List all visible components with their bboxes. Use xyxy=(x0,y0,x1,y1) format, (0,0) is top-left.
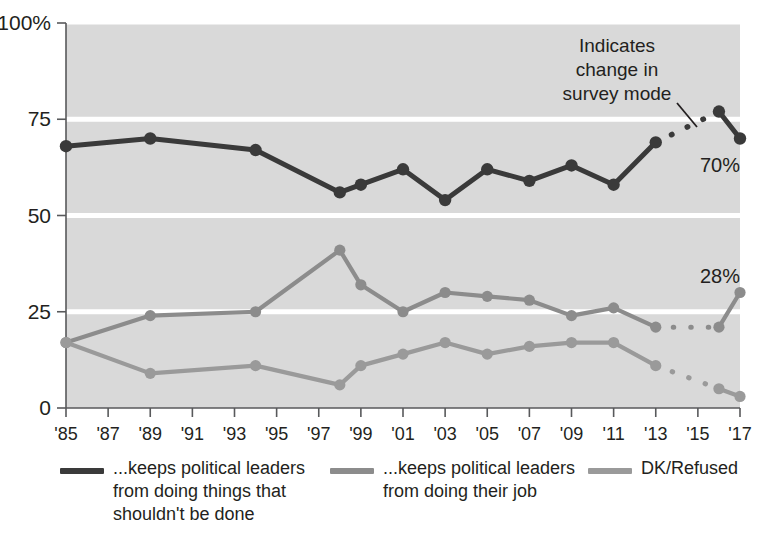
data-point xyxy=(524,295,535,306)
y-tick-label-0: 0 xyxy=(39,396,51,419)
x-tick-label-'09: '09 xyxy=(560,424,583,444)
data-point xyxy=(608,302,619,313)
data-point xyxy=(482,349,493,360)
data-point xyxy=(334,186,346,198)
data-point xyxy=(355,179,367,191)
data-point xyxy=(60,140,72,152)
data-point xyxy=(713,383,724,394)
data-point xyxy=(734,132,746,144)
legend-label-series-1: ...keeps political leaders from doing th… xyxy=(113,457,305,526)
y-tick-label-100: 100% xyxy=(0,11,51,34)
data-point xyxy=(250,360,261,371)
data-point xyxy=(397,306,408,317)
x-tick-label-'89: '89 xyxy=(139,424,162,444)
data-point xyxy=(250,306,261,317)
data-point xyxy=(397,163,409,175)
legend-swatch-series-2 xyxy=(330,468,374,474)
x-tick-label-'95: '95 xyxy=(265,424,288,444)
data-point xyxy=(650,360,661,371)
data-point xyxy=(144,132,156,144)
annotation-line-1: Indicates xyxy=(579,35,655,56)
data-point xyxy=(734,287,745,298)
x-axis-labels: '85'87'89'91'93'95'97'99'01'03'05'07'09'… xyxy=(54,424,751,444)
x-tick-label-'85: '85 xyxy=(54,424,77,444)
line-chart: 0255075100% '85'87'89'91'93'95'97'99'01'… xyxy=(0,0,767,534)
legend-item-dk-refused[interactable]: DK/Refused xyxy=(588,457,738,480)
data-point xyxy=(734,391,745,402)
data-point xyxy=(713,322,724,333)
y-axis-labels: 0255075100% xyxy=(0,11,51,419)
x-tick-label-'05: '05 xyxy=(476,424,499,444)
x-tick-label-'03: '03 xyxy=(433,424,456,444)
data-point xyxy=(713,105,725,117)
data-point xyxy=(334,379,345,390)
data-point xyxy=(60,337,71,348)
x-tick-label-'07: '07 xyxy=(518,424,541,444)
annotation-line-3: survey mode xyxy=(563,83,672,104)
x-tick-label-'13: '13 xyxy=(644,424,667,444)
legend-label-series-2: ...keeps political leaders from doing th… xyxy=(383,457,575,503)
y-tick-label-25: 25 xyxy=(28,300,51,323)
x-tick-label-'11: '11 xyxy=(603,424,625,444)
data-point xyxy=(355,279,366,290)
x-tick-label-'91: '91 xyxy=(181,424,204,444)
annotation-line-2: change in xyxy=(576,59,658,80)
data-point xyxy=(566,337,577,348)
legend-item-keeps-from-doing-things[interactable]: ...keeps political leaders from doing th… xyxy=(60,457,305,526)
legend-swatch-series-1 xyxy=(60,468,104,474)
y-tick-label-75: 75 xyxy=(28,107,51,130)
data-point xyxy=(249,144,261,156)
x-axis-ticks xyxy=(66,408,740,417)
x-tick-label-'17: '17 xyxy=(728,424,751,444)
data-point xyxy=(355,360,366,371)
data-point xyxy=(145,310,156,321)
data-point xyxy=(482,291,493,302)
legend-swatch-series-3 xyxy=(588,468,632,474)
data-point xyxy=(608,337,619,348)
data-point xyxy=(607,179,619,191)
data-point xyxy=(440,337,451,348)
x-tick-label-'93: '93 xyxy=(223,424,246,444)
data-point xyxy=(145,368,156,379)
legend-label-series-3: DK/Refused xyxy=(641,457,738,480)
y-tick-label-50: 50 xyxy=(28,204,51,227)
data-point xyxy=(334,245,345,256)
data-point xyxy=(481,163,493,175)
data-point xyxy=(650,136,662,148)
data-point xyxy=(650,322,661,333)
x-tick-label-'01: '01 xyxy=(391,424,414,444)
chart-canvas: 0255075100% '85'87'89'91'93'95'97'99'01'… xyxy=(0,0,767,534)
x-tick-label-'97: '97 xyxy=(307,424,330,444)
series-2-end-label: 28% xyxy=(700,265,740,287)
legend-item-keeps-from-doing-job[interactable]: ...keeps political leaders from doing th… xyxy=(330,457,575,503)
x-tick-label-'15: '15 xyxy=(686,424,709,444)
data-point xyxy=(565,159,577,171)
x-tick-label-'87: '87 xyxy=(96,424,119,444)
series-1-end-label: 70% xyxy=(700,154,740,176)
data-point xyxy=(523,175,535,187)
chart-legend: ...keeps political leaders from doing th… xyxy=(0,455,767,534)
y-axis-ticks xyxy=(57,23,66,408)
data-point xyxy=(397,349,408,360)
data-point xyxy=(439,194,451,206)
x-tick-label-'99: '99 xyxy=(349,424,372,444)
data-point xyxy=(566,310,577,321)
data-point xyxy=(524,341,535,352)
data-point xyxy=(440,287,451,298)
